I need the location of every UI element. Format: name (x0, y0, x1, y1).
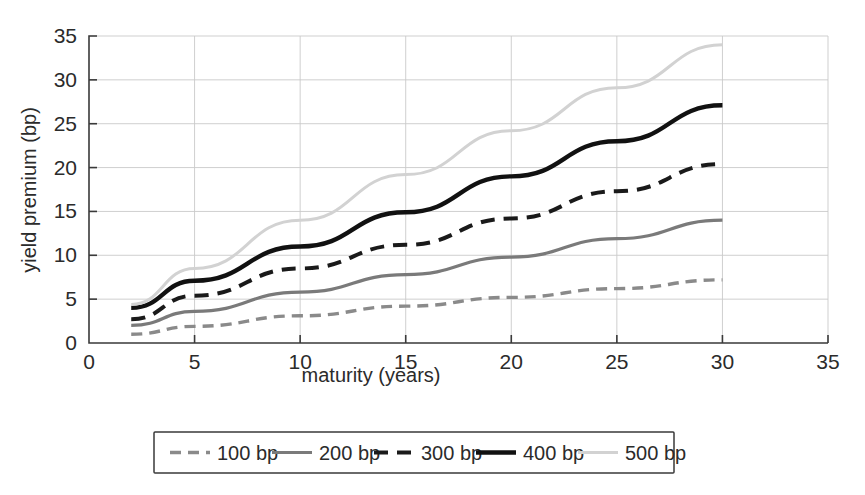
y-tick-label: 5 (65, 287, 77, 310)
x-tick-label: 0 (83, 350, 95, 373)
legend-label-200-bp: 200 bp (319, 442, 380, 464)
legend-label-100-bp: 100 bp (217, 442, 278, 464)
x-tick-label: 20 (500, 350, 523, 373)
y-tick-label: 35 (54, 24, 77, 47)
x-tick-label: 35 (816, 350, 839, 373)
y-axis-title: yield premium (bp) (18, 107, 40, 273)
x-tick-label: 5 (189, 350, 201, 373)
series-line-200-bp (131, 220, 722, 325)
y-tick-labels: 05101520253035 (54, 24, 77, 354)
legend-label-400-bp: 400 bp (523, 442, 584, 464)
x-tick-label: 25 (605, 350, 628, 373)
series-line-500-bp (131, 45, 722, 305)
y-tick-label: 30 (54, 68, 77, 91)
legend-label-500-bp: 500 bp (625, 442, 686, 464)
y-tick-label: 0 (65, 331, 77, 354)
series-line-100-bp (131, 280, 722, 334)
y-tick-label: 25 (54, 112, 77, 135)
series-lines (131, 45, 722, 334)
yield-premium-chart-figure: 05101520253035 05101520253035 maturity (… (0, 0, 865, 495)
x-tick-labels: 05101520253035 (83, 350, 840, 373)
series-line-300-bp (131, 164, 722, 319)
y-tick-label: 20 (54, 156, 77, 179)
chart-legend: 100 bp200 bp300 bp400 bp500 bp (154, 432, 686, 473)
y-tick-label: 15 (54, 199, 77, 222)
series-line-400-bp (131, 105, 722, 308)
chart-canvas: 05101520253035 05101520253035 maturity (… (0, 0, 865, 495)
y-tick-label: 10 (54, 243, 77, 266)
legend-label-300-bp: 300 bp (421, 442, 482, 464)
x-axis-title: maturity (years) (302, 364, 441, 386)
x-tick-label: 30 (711, 350, 734, 373)
